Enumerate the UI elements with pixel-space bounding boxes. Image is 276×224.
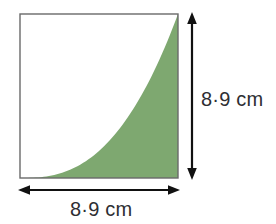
figure-container: 8·9 cm 8·9 cm bbox=[0, 0, 276, 224]
height-dimension-label: 8·9 cm bbox=[201, 89, 263, 109]
width-dimension-arrow bbox=[18, 185, 180, 195]
height-arrow-head-top bbox=[187, 12, 197, 24]
width-arrow-head-right bbox=[168, 185, 180, 195]
height-arrow-head-bottom bbox=[187, 168, 197, 180]
geometry-diagram bbox=[0, 0, 276, 224]
width-dimension-label: 8·9 cm bbox=[70, 199, 132, 219]
width-arrow-head-left bbox=[18, 185, 30, 195]
height-dimension-arrow bbox=[187, 12, 197, 180]
